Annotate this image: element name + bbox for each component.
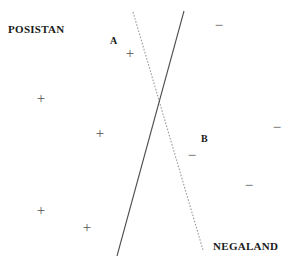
boundary-label-b: B [201, 134, 208, 144]
negative-sample-marker: − [245, 178, 253, 193]
negative-sample-marker: − [215, 18, 223, 33]
positive-sample-marker: + [96, 126, 104, 141]
diagram-canvas: POSISTAN NEGALAND A B +++++−−−− [0, 0, 294, 269]
negative-region-label: NEGALAND [213, 241, 278, 252]
positive-sample-marker: + [126, 46, 134, 61]
positive-sample-marker: + [37, 91, 45, 106]
positive-region-label: POSISTAN [8, 24, 65, 35]
positive-sample-marker: + [83, 220, 91, 235]
negative-sample-marker: − [188, 148, 196, 163]
boundary-line-a [133, 12, 203, 250]
boundary-label-a: A [110, 36, 117, 46]
negative-sample-marker: − [273, 120, 281, 135]
boundary-lines-layer [0, 0, 294, 269]
positive-sample-marker: + [37, 203, 45, 218]
